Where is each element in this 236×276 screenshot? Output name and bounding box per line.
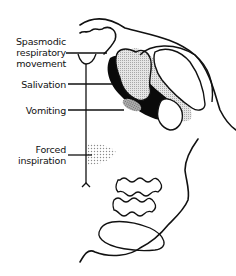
label-line: inspiration — [10, 155, 66, 166]
brainstem-diagram: Spasmodic respiratory movement Salivatio… — [0, 0, 236, 276]
label-vomiting: Vomiting — [10, 105, 66, 116]
label-spasmodic-respiratory-movement: Spasmodic respiratory movement — [10, 36, 66, 69]
label-line: Salivation — [10, 79, 66, 90]
label-line: Vomiting — [10, 105, 66, 116]
forced-inspiration-region — [88, 143, 116, 165]
label-line: Spasmodic — [10, 36, 66, 47]
label-line: movement — [10, 58, 66, 69]
label-forced-inspiration: Forced inspiration — [10, 144, 66, 166]
label-line: respiratory — [10, 47, 66, 58]
label-salivation: Salivation — [10, 79, 66, 90]
label-line: Forced — [10, 144, 66, 155]
